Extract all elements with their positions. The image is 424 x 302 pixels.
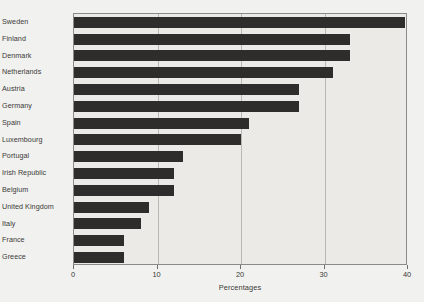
x-tick-0	[73, 265, 74, 269]
bar-row	[74, 165, 406, 182]
gridline-40	[408, 14, 409, 264]
bar	[74, 101, 299, 112]
bar-row	[74, 148, 406, 165]
bar-row	[74, 249, 406, 266]
category-label-france: France	[2, 235, 68, 244]
x-axis: 010203040	[73, 265, 407, 281]
y-axis-category-labels: SwedenFinlandDenmarkNetherlandsAustriaGe…	[0, 13, 73, 265]
bar-row	[74, 216, 406, 233]
plot-area	[73, 13, 407, 265]
x-tick-label-20: 20	[236, 270, 244, 279]
bar	[74, 168, 174, 179]
x-tick-label-30: 30	[319, 270, 327, 279]
x-tick-40	[407, 265, 408, 269]
bar	[74, 84, 299, 95]
bar	[74, 17, 405, 28]
bar-row	[74, 98, 406, 115]
bar-series	[74, 14, 406, 264]
bar-row	[74, 199, 406, 216]
x-axis-title: Percentages	[73, 283, 407, 292]
category-label-portugal: Portugal	[2, 151, 68, 160]
bar	[74, 34, 350, 45]
category-label-spain: Spain	[2, 118, 68, 127]
x-tick-10	[157, 265, 158, 269]
bar-row	[74, 14, 406, 31]
category-label-luxembourg: Luxembourg	[2, 135, 68, 144]
bar-row	[74, 81, 406, 98]
x-tick-label-40: 40	[403, 270, 411, 279]
x-tick-label-0: 0	[71, 270, 75, 279]
x-tick-20	[240, 265, 241, 269]
bar	[74, 235, 124, 246]
category-label-united-kingdom: United Kingdom	[2, 202, 68, 211]
bar	[74, 50, 350, 61]
bar-row	[74, 31, 406, 48]
bar	[74, 67, 333, 78]
bar	[74, 252, 124, 263]
category-label-belgium: Belgium	[2, 185, 68, 194]
bar	[74, 202, 149, 213]
bar-row	[74, 48, 406, 65]
category-label-germany: Germany	[2, 101, 68, 110]
category-label-greece: Greece	[2, 252, 68, 261]
category-label-italy: Italy	[2, 219, 68, 228]
category-label-netherlands: Netherlands	[2, 67, 68, 76]
bar-row	[74, 132, 406, 149]
bar	[74, 118, 249, 129]
category-label-sweden: Sweden	[2, 17, 68, 26]
bar-chart-figure: SwedenFinlandDenmarkNetherlandsAustriaGe…	[0, 0, 424, 302]
category-label-irish-republic: Irish Republic	[2, 168, 68, 177]
bar-row	[74, 115, 406, 132]
bar	[74, 185, 174, 196]
x-tick-30	[324, 265, 325, 269]
bar-row	[74, 232, 406, 249]
bar-row	[74, 182, 406, 199]
category-label-denmark: Denmark	[2, 51, 68, 60]
category-label-austria: Austria	[2, 84, 68, 93]
x-tick-label-10: 10	[152, 270, 160, 279]
bar	[74, 134, 241, 145]
category-label-finland: Finland	[2, 34, 68, 43]
bar-row	[74, 64, 406, 81]
bar	[74, 151, 183, 162]
bar	[74, 218, 141, 229]
